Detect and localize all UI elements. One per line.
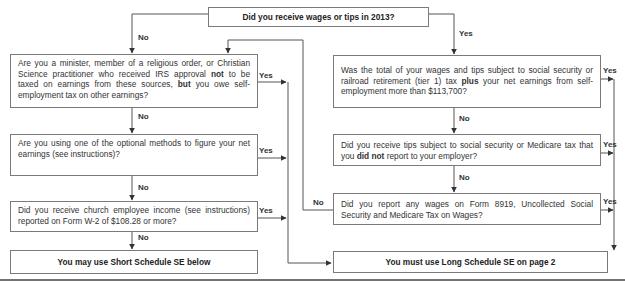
right-q2-no-label: No	[459, 173, 470, 182]
optional-methods-question-box: Are you using one of the optional method…	[10, 134, 258, 176]
church-income-question-box: Did you receive church employee income (…	[10, 201, 258, 232]
right-q2-yes-label: Yes	[603, 140, 617, 149]
left-q2-yes-label: Yes	[259, 146, 273, 155]
start-question-box: Did you receive wages or tips in 2013?	[208, 7, 429, 27]
start-yes-label: Yes	[459, 29, 473, 38]
left-q2-no-label: No	[138, 183, 149, 192]
left-q3-no-label: No	[138, 233, 149, 242]
minister-question-box: Are you a minister, member of a religiou…	[10, 54, 258, 108]
start-no-label: No	[138, 33, 149, 42]
unreported-tips-question-box: Did you receive tips subject to social s…	[333, 134, 601, 166]
start-question: Did you receive wages or tips in 2013?	[242, 12, 394, 23]
wages-total-question-box: Was the total of your wages and tips sub…	[333, 55, 601, 108]
short-schedule-result-box: You may use Short Schedule SE below	[10, 250, 258, 274]
left-q1-no-label: No	[138, 112, 149, 121]
form-8919-question-box: Did you report any wages on Form 8919, U…	[333, 193, 601, 225]
right-q1-no-label: No	[459, 114, 470, 123]
right-q3-no-label: No	[313, 198, 324, 207]
left-q1-yes-label: Yes	[259, 71, 273, 80]
right-q3-yes-label: Yes	[603, 197, 617, 206]
right-q1-yes-label: Yes	[603, 66, 617, 75]
long-schedule-result-box: You must use Long Schedule SE on page 2	[333, 251, 608, 273]
left-q3-yes-label: Yes	[259, 206, 273, 215]
